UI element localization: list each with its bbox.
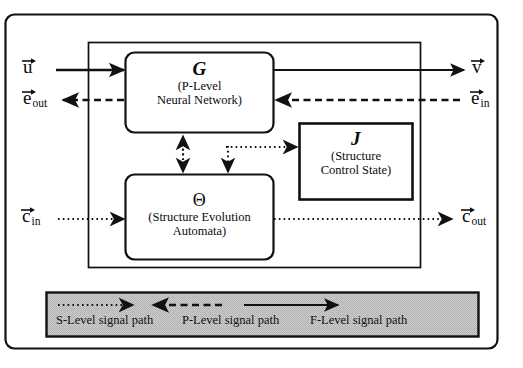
block-theta-caption-line2: Automata) bbox=[120, 224, 279, 238]
block-j-caption-line1: (Structure bbox=[299, 149, 413, 163]
legend-entry-f-level: F-Level signal path bbox=[310, 313, 407, 328]
signal-theta-to-j bbox=[226, 146, 297, 172]
vector-arrow-icon bbox=[22, 88, 36, 95]
vector-arrow-icon bbox=[21, 206, 35, 213]
figure-canvas: G (P-Level Neural Network) J (Structure … bbox=[0, 0, 523, 368]
port-label-c-out: cout bbox=[461, 206, 486, 227]
port-label-e-out: eout bbox=[22, 88, 47, 109]
port-label-v: v bbox=[471, 57, 483, 77]
port-label-c-in: cin bbox=[21, 206, 40, 227]
block-j-symbol: J bbox=[299, 128, 413, 149]
vector-arrow-icon bbox=[461, 206, 475, 213]
block-g-caption-line2: Neural Network) bbox=[125, 93, 274, 107]
block-theta-symbol: Θ bbox=[120, 190, 279, 210]
vector-arrow-icon bbox=[471, 57, 485, 64]
legend-entry-s-level: S-Level signal path bbox=[56, 313, 153, 328]
block-g-label: G (P-Level Neural Network) bbox=[125, 58, 274, 107]
port-c-in-sub: in bbox=[31, 215, 40, 227]
port-c-out-sub: out bbox=[471, 215, 486, 227]
port-e-in-sub: in bbox=[480, 97, 489, 109]
vector-arrow-icon bbox=[22, 57, 36, 64]
block-theta-label: Θ (Structure Evolution Automata) bbox=[120, 190, 279, 238]
block-j-caption-line2: Control State) bbox=[299, 163, 413, 177]
port-label-u: u bbox=[22, 57, 34, 77]
port-e-out-sub: out bbox=[32, 97, 47, 109]
block-theta-caption-line1: (Structure Evolution bbox=[120, 210, 279, 224]
vector-arrow-icon bbox=[470, 88, 484, 95]
block-j-label: J (Structure Control State) bbox=[299, 128, 413, 177]
block-g-symbol: G bbox=[125, 58, 274, 79]
port-label-e-in: ein bbox=[470, 88, 489, 109]
block-g-caption-line1: (P-Level bbox=[125, 79, 274, 93]
legend-entry-p-level: P-Level signal path bbox=[182, 313, 279, 328]
